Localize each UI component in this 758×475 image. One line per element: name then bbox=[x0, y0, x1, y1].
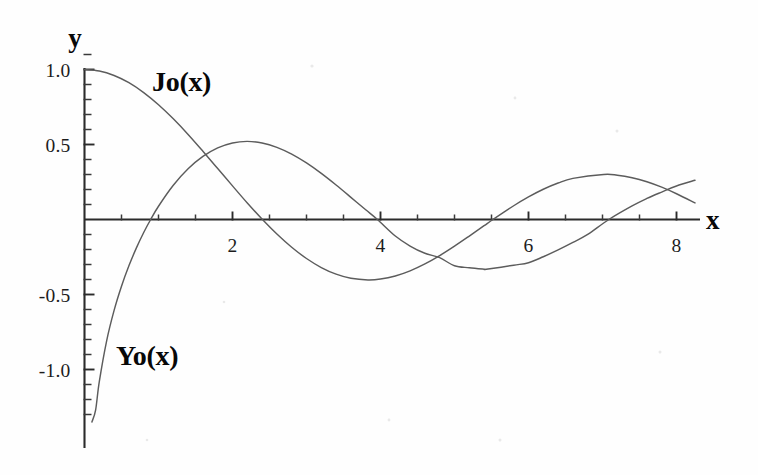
plot-canvas: 24681.00.5-0.5-1.0 y x Jo(x) Yo(x) bbox=[0, 0, 758, 475]
y-tick-label: -1.0 bbox=[39, 360, 71, 381]
x-axis-label: x bbox=[706, 205, 720, 235]
y-axis-label: y bbox=[68, 23, 82, 53]
y-tick-label: 0.5 bbox=[46, 135, 71, 156]
x-tick-label: 4 bbox=[376, 235, 386, 256]
series-label-j0: Jo(x) bbox=[152, 66, 211, 97]
y-tick-label: -0.5 bbox=[39, 285, 71, 306]
x-tick-label: 2 bbox=[228, 235, 238, 256]
y-tick-label: 1.0 bbox=[46, 60, 71, 81]
x-tick-label: 8 bbox=[672, 235, 682, 256]
series-label-y0: Yo(x) bbox=[116, 340, 178, 371]
x-tick-label: 6 bbox=[524, 235, 534, 256]
bessel-function-plot-figure: 24681.00.5-0.5-1.0 y x Jo(x) Yo(x) bbox=[0, 0, 758, 475]
